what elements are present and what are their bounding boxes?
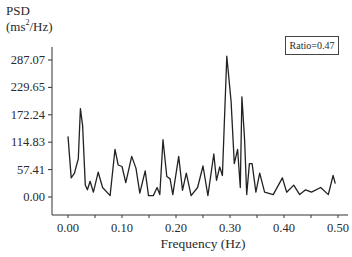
- y-tick-label: 0.00: [23, 190, 45, 204]
- x-tick-label: 0.00: [57, 221, 79, 235]
- x-tick-label: 0.20: [165, 221, 187, 235]
- x-tick-label: 0.40: [273, 221, 295, 235]
- x-axis-ticks: 0.000.100.200.300.400.50: [57, 215, 349, 235]
- y-tick-label: 57.41: [17, 163, 45, 177]
- x-tick-label: 0.10: [111, 221, 133, 235]
- y-tick-label: 172.24: [11, 108, 46, 122]
- psd-line: [68, 56, 335, 195]
- y-tick-label: 287.07: [11, 53, 45, 67]
- x-axis-title: Frequency (Hz): [160, 236, 245, 251]
- y-tick-label: 229.65: [11, 80, 45, 94]
- x-tick-label: 0.50: [327, 221, 349, 235]
- x-tick-label: 0.30: [219, 221, 241, 235]
- psd-chart: 287.07229.65172.24114.8357.410.00 0.000.…: [0, 0, 352, 257]
- axes: [52, 47, 348, 215]
- y-tick-label: 114.83: [11, 135, 45, 149]
- y-axis-ticks: 287.07229.65172.24114.8357.410.00: [11, 53, 52, 204]
